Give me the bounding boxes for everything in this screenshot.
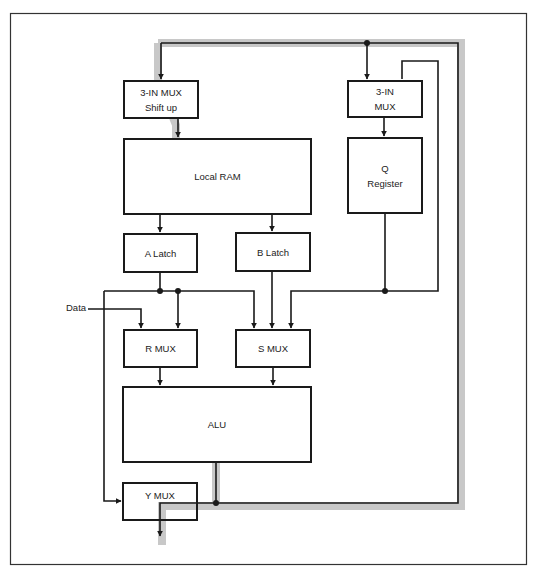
b-latch-label: B Latch xyxy=(257,245,289,260)
r-mux-block: R MUX xyxy=(123,329,198,368)
r-mux-label: R MUX xyxy=(145,341,176,356)
mux-q-line2: MUX xyxy=(374,99,395,114)
data-input-label: Data xyxy=(66,302,86,313)
a-latch-block: A Latch xyxy=(123,233,198,273)
mux-shift-up-line2: Shift up xyxy=(145,100,177,115)
s-mux-block: S MUX xyxy=(235,329,311,368)
bus-highlight xyxy=(158,43,461,545)
alu-label: ALU xyxy=(208,417,226,432)
s-mux-label: S MUX xyxy=(258,341,288,356)
local-ram-block: Local RAM xyxy=(123,138,312,215)
outer-frame xyxy=(11,14,527,565)
local-ram-label: Local RAM xyxy=(194,169,240,184)
y-mux-block: Y MUX xyxy=(122,482,198,521)
mux-q-line1: 3-IN xyxy=(376,84,394,99)
b-latch-block: B Latch xyxy=(235,232,311,272)
q-register-line2: Register xyxy=(367,176,402,191)
diagram-canvas xyxy=(0,0,539,574)
mux-shift-up-block: 3-IN MUX Shift up xyxy=(123,80,199,119)
mux-q-block: 3-IN MUX xyxy=(347,80,423,118)
q-register-block: Q Register xyxy=(347,137,423,214)
q-register-line1: Q xyxy=(381,161,388,176)
y-mux-label: Y MUX xyxy=(145,488,175,503)
a-latch-label: A Latch xyxy=(145,246,177,261)
mux-shift-up-line1: 3-IN MUX xyxy=(140,85,182,100)
alu-block: ALU xyxy=(122,386,312,463)
